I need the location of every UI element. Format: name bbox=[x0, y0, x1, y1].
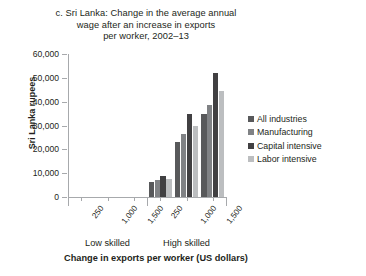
legend-swatch-icon bbox=[248, 116, 254, 122]
bar bbox=[175, 142, 180, 197]
bar bbox=[213, 73, 218, 197]
bar bbox=[149, 182, 154, 197]
x-axis-tick bbox=[160, 197, 161, 201]
legend-swatch-icon bbox=[248, 156, 254, 162]
chart-title: c. Sri Lanka: Change in the average annu… bbox=[36, 8, 256, 43]
y-axis-title: Sri Lanka rupees bbox=[27, 53, 37, 173]
x-axis-group-separator bbox=[147, 197, 148, 206]
y-axis-tick-label: 10,000 bbox=[33, 168, 59, 178]
bar bbox=[181, 134, 186, 197]
bar-cluster bbox=[96, 54, 119, 197]
bar bbox=[166, 179, 171, 197]
chart-title-line-2: wage after an increase in exports bbox=[36, 20, 256, 32]
x-axis-tick-label: 250 bbox=[90, 204, 105, 220]
bar-cluster bbox=[70, 54, 93, 197]
y-axis-line bbox=[68, 54, 69, 197]
legend-item[interactable]: All industries bbox=[248, 112, 322, 126]
x-axis-title: Change in exports per worker (US dollars… bbox=[26, 253, 286, 263]
bar bbox=[187, 114, 192, 197]
x-axis-tick bbox=[134, 197, 135, 201]
legend-swatch-icon bbox=[248, 129, 254, 135]
x-axis-group-separator bbox=[226, 197, 227, 206]
x-axis-group-label: Low skilled bbox=[68, 238, 147, 248]
x-axis-tick bbox=[213, 197, 214, 201]
x-axis-tick-label: 1,500 bbox=[146, 204, 166, 226]
y-axis-tick bbox=[62, 102, 67, 103]
y-axis-tick-label: 30,000 bbox=[33, 121, 59, 131]
y-axis-tick-label: 50,000 bbox=[33, 73, 59, 83]
legend-item-label: Capital intensive bbox=[257, 141, 322, 151]
legend-item-label: All industries bbox=[257, 114, 307, 124]
legend-item-label: Manufacturing bbox=[257, 127, 313, 137]
legend-item[interactable]: Labor intensive bbox=[248, 153, 322, 167]
bar-chart: c. Sri Lanka: Change in the average annu… bbox=[0, 0, 366, 276]
y-axis-tick bbox=[62, 54, 67, 55]
x-axis-tick bbox=[108, 197, 109, 201]
y-axis-tick bbox=[62, 197, 67, 198]
x-axis-tick-label: 1,000 bbox=[119, 204, 139, 226]
x-axis-group-label: High skilled bbox=[147, 238, 226, 248]
bar bbox=[193, 126, 198, 198]
y-axis-tick bbox=[62, 173, 67, 174]
x-axis-tick bbox=[81, 197, 82, 201]
x-axis-tick-label: 1,000 bbox=[198, 204, 218, 226]
y-axis-tick-label: 40,000 bbox=[33, 97, 59, 107]
y-axis-tick bbox=[62, 149, 67, 150]
bar-cluster bbox=[201, 54, 224, 197]
chart-legend: All industriesManufacturingCapital inten… bbox=[248, 112, 322, 166]
bar-cluster bbox=[149, 54, 172, 197]
x-axis-tick-label: 1,500 bbox=[225, 204, 245, 226]
x-axis-tick-label: 250 bbox=[169, 204, 184, 220]
legend-item[interactable]: Capital intensive bbox=[248, 139, 322, 153]
y-axis-tick-label: 20,000 bbox=[33, 144, 59, 154]
bar bbox=[160, 176, 165, 197]
bar-cluster bbox=[122, 54, 145, 197]
legend-swatch-icon bbox=[248, 143, 254, 149]
legend-item[interactable]: Manufacturing bbox=[248, 126, 322, 140]
bar bbox=[201, 114, 206, 197]
legend-item-label: Labor intensive bbox=[257, 154, 317, 164]
x-axis-tick bbox=[187, 197, 188, 201]
bar bbox=[219, 91, 224, 197]
bar bbox=[207, 105, 212, 197]
y-axis-tick-label: 0 bbox=[54, 192, 59, 202]
bar-cluster bbox=[175, 54, 198, 197]
y-axis-tick bbox=[62, 78, 67, 79]
y-axis-tick-label: 60,000 bbox=[33, 49, 59, 59]
chart-title-line-3: per worker, 2002–13 bbox=[36, 31, 256, 43]
bar bbox=[155, 180, 160, 197]
x-axis-group-separator bbox=[68, 197, 69, 206]
plot-area: 010,00020,00030,00040,00050,00060,000 25… bbox=[68, 54, 226, 197]
chart-title-line-1: c. Sri Lanka: Change in the average annu… bbox=[36, 8, 256, 20]
y-axis-tick bbox=[62, 126, 67, 127]
